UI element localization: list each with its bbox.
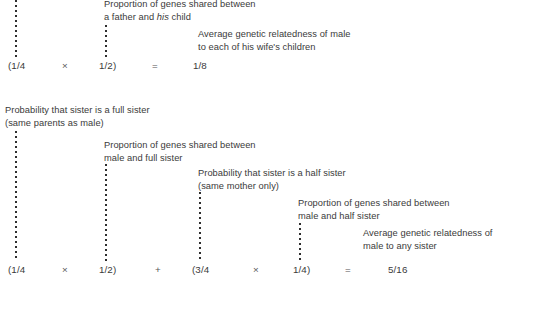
leader-line-full-sister-probability: [15, 131, 17, 261]
leader-line-half-sister-proportion: [299, 223, 301, 261]
equation-token-equals: =: [345, 263, 351, 277]
caption-average-relatedness-any-sister: Average genetic relatedness of male to a…: [363, 227, 493, 253]
leader-line-half-sister-probability: [199, 192, 201, 261]
leader-line-father-child-term1: [15, 0, 17, 57]
caption-line-1: Proportion of genes shared between: [298, 197, 450, 210]
caption-line-2: male to any sister: [363, 240, 493, 253]
caption-proportion-father-child: Proportion of genes shared between a fat…: [104, 0, 256, 24]
caption-proportion-male-full-sister: Proportion of genes shared between male …: [104, 139, 256, 165]
caption-line-2: male and full sister: [104, 152, 256, 165]
caption-average-relatedness-wife-children: Average genetic relatedness of male to e…: [198, 28, 351, 54]
equation-token-result-5-16: 5/16: [388, 263, 407, 277]
genetic-relatedness-diagram: Proportion of genes shared between a fat…: [0, 0, 533, 309]
caption-line-1: Proportion of genes shared between: [104, 0, 256, 11]
equation-token-close-1-2: 1/2): [99, 263, 116, 277]
equation-token-times: ×: [62, 59, 68, 73]
caption-line-1: Probability that sister is a full sister: [5, 104, 150, 117]
caption-line-2: a father and his child: [104, 11, 256, 24]
equation-token-open-3-4: (3/4: [192, 263, 209, 277]
caption-line-2: (same mother only): [198, 180, 346, 193]
equation-token-times-2: ×: [253, 263, 259, 277]
caption-proportion-male-half-sister: Proportion of genes shared between male …: [298, 197, 450, 223]
caption-line-2: (same parents as male): [5, 117, 150, 130]
caption-line-1: Probability that sister is a half sister: [198, 167, 346, 180]
caption-emphasis-his: his: [157, 12, 169, 22]
equation-father-child: (1/4 × 1/2) = 1/8: [0, 59, 533, 73]
equation-token-close-1-4: 1/4): [293, 263, 310, 277]
caption-text-pre: a father and: [104, 12, 157, 22]
caption-line-1: Average genetic relatedness of: [363, 227, 493, 240]
leader-line-full-sister-proportion: [105, 164, 107, 261]
caption-line-2: to each of his wife's children: [198, 41, 351, 54]
equation-token-open-1-4: (1/4: [8, 263, 25, 277]
caption-text-post: child: [169, 12, 191, 22]
equation-any-sister: (1/4 × 1/2) + (3/4 × 1/4) = 5/16: [0, 263, 533, 277]
leader-line-father-child-term2: [105, 25, 107, 57]
caption-probability-full-sister: Probability that sister is a full sister…: [5, 104, 150, 130]
caption-line-2: male and half sister: [298, 210, 450, 223]
equation-token-plus: +: [155, 263, 161, 277]
equation-token-close-1-2: 1/2): [99, 59, 116, 73]
equation-token-result-1-8: 1/8: [193, 59, 207, 73]
caption-line-1: Average genetic relatedness of male: [198, 28, 351, 41]
equation-token-times-1: ×: [62, 263, 68, 277]
caption-line-1: Proportion of genes shared between: [104, 139, 256, 152]
caption-probability-half-sister: Probability that sister is a half sister…: [198, 167, 346, 193]
equation-token-open-1-4: (1/4: [8, 59, 25, 73]
equation-token-equals: =: [152, 59, 158, 73]
